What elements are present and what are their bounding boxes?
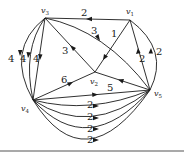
- arrow-icon: [93, 127, 99, 131]
- edge-v5-v2: [95, 72, 150, 90]
- edge-weight-v3-v4-curved-1: 4: [20, 53, 26, 64]
- edge-weight-v1-v3: 2: [81, 7, 87, 18]
- edge-weight-v5-v2: 5: [107, 82, 113, 93]
- edge-v2-v3: [45, 18, 95, 72]
- arrow-icon: [93, 116, 99, 120]
- vertex-label-v3: v3: [41, 6, 50, 16]
- edge-weight-v4-v5-curved-4: 2: [87, 134, 93, 145]
- edge-weight-v4-v5-curved-3: 2: [87, 123, 93, 134]
- vertex-label-v5: v5: [154, 89, 163, 99]
- edge-weight-v4-v2: 6: [61, 74, 67, 85]
- edge-weight-v3-v5: 3: [91, 25, 97, 36]
- edge-weight-v1-v2: 1: [111, 28, 117, 39]
- edge-weight-v3-v4-curved-2: 4: [8, 53, 14, 64]
- edge-weight-v4-v5-curved-1: 2: [87, 99, 93, 110]
- edge-weight-v5-v1: 2: [139, 53, 145, 64]
- arrow-icon: [92, 93, 98, 98]
- edge-weight-v4-v5-curved-2: 2: [87, 111, 93, 122]
- vertex-label-v2: v2: [90, 77, 98, 87]
- edge-v1-v3: [45, 17, 130, 21]
- arrow-icon: [93, 138, 99, 142]
- arrow-icon: [103, 54, 108, 60]
- arrow-icon: [118, 79, 124, 84]
- vertex-label-v1: v1: [126, 7, 134, 17]
- arrow-icon: [149, 48, 154, 54]
- directed-graph-diagram: 2 3 1 3 2 2 4 4 4 6 5 2 2 2 2 v1 v2 v3 v…: [0, 0, 184, 153]
- vertex-label-v4: v4: [21, 104, 30, 114]
- arrow-icon: [67, 82, 73, 87]
- edge-weight-v2-v3: 3: [62, 45, 68, 56]
- edge-weight-v3-v4: 4: [33, 53, 39, 64]
- edge-weight-v5-v1-curved: 2: [156, 46, 162, 57]
